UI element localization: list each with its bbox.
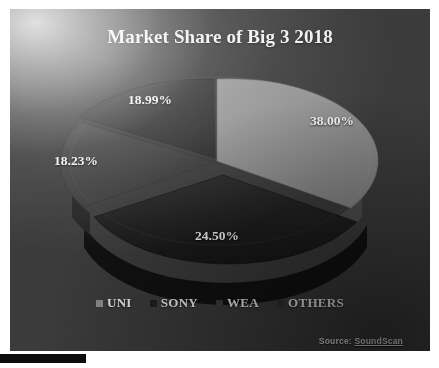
legend-label-uni: UNI [107, 295, 132, 311]
chart-photo-plate: Market Share of Big 3 2018 38.00% 18.99%… [10, 9, 430, 351]
legend-item-others[interactable]: OTHERS [277, 295, 344, 311]
legend-label-others: OTHERS [288, 295, 344, 311]
pie-label-uni: 38.00% [310, 113, 354, 129]
legend-label-sony: SONY [161, 295, 198, 311]
legend-swatch-others [277, 300, 284, 307]
chart-legend: UNI SONY WEA OTHERS [10, 295, 430, 311]
source-value: SoundScan [354, 336, 403, 346]
legend-item-wea[interactable]: WEA [216, 295, 259, 311]
legend-item-uni[interactable]: UNI [96, 295, 132, 311]
pie-label-sony: 24.50% [195, 228, 239, 244]
legend-swatch-wea [216, 300, 223, 307]
chart-title: Market Share of Big 3 2018 [10, 26, 430, 48]
source-prefix: Source: [319, 336, 352, 346]
source-note: Source: SoundScan [319, 336, 403, 346]
legend-swatch-sony [150, 300, 157, 307]
legend-label-wea: WEA [227, 295, 259, 311]
pie-label-others: 18.99% [128, 92, 172, 108]
pie-label-wea: 18.23% [54, 153, 98, 169]
legend-swatch-uni [96, 300, 103, 307]
legend-item-sony[interactable]: SONY [150, 295, 198, 311]
bottom-black-bar [0, 354, 86, 363]
